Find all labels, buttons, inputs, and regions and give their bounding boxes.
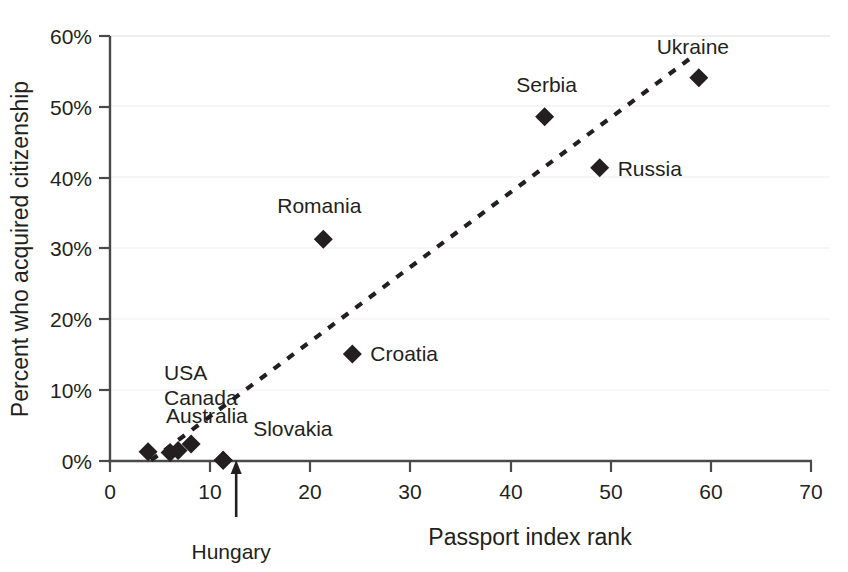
data-point-label: Russia	[618, 157, 683, 180]
x-axis-ticks	[110, 461, 811, 472]
data-point-marker	[214, 451, 233, 470]
data-point-marker	[590, 158, 609, 177]
y-axis-title: Percent who acquired citizenship	[7, 81, 33, 417]
data-point-labels: USACanadaAustraliaSlovakiaRomaniaCroatia…	[164, 35, 729, 441]
x-tick-label: 0	[104, 480, 116, 503]
x-tick-label: 20	[298, 480, 321, 503]
data-point-marker	[689, 68, 708, 87]
y-tick-label: 30%	[50, 237, 92, 260]
y-tick-label: 60%	[50, 25, 92, 48]
x-axis-title: Passport index rank	[428, 524, 632, 550]
data-point-label: Romania	[277, 194, 361, 217]
y-tick-label: 40%	[50, 167, 92, 190]
y-tick-label: 50%	[50, 96, 92, 119]
x-tick-label: 30	[398, 480, 421, 503]
data-point-label: Croatia	[370, 342, 438, 365]
data-point-label: Ukraine	[657, 35, 729, 58]
data-point-label: USA	[164, 361, 207, 384]
y-tick-label: 10%	[50, 379, 92, 402]
y-axis-ticks	[99, 36, 110, 461]
data-point-marker	[314, 230, 333, 249]
data-point-label: Slovakia	[253, 417, 333, 440]
chart-svg: 60% 50% 40% 30% 20% 10% 0% 0 10 20 30 40…	[0, 0, 848, 572]
x-tick-label: 70	[799, 480, 822, 503]
gridlines	[110, 36, 830, 390]
x-tick-label: 40	[499, 480, 522, 503]
y-axis-tick-labels: 60% 50% 40% 30% 20% 10% 0%	[50, 25, 92, 473]
y-tick-label: 20%	[50, 308, 92, 331]
x-tick-label: 50	[599, 480, 622, 503]
hungary-callout-annotation: Hungary	[191, 460, 271, 563]
hungary-callout-label: Hungary	[191, 540, 271, 563]
y-tick-label: 0%	[62, 450, 92, 473]
scatter-chart-figure: 60% 50% 40% 30% 20% 10% 0% 0 10 20 30 40…	[0, 0, 848, 572]
data-point-label: Australia	[166, 404, 248, 427]
data-point-marker	[535, 107, 554, 126]
x-tick-label: 10	[198, 480, 221, 503]
x-axis-tick-labels: 0 10 20 30 40 50 60 70	[104, 480, 823, 503]
data-point-label: Serbia	[516, 73, 577, 96]
data-point-marker	[343, 345, 362, 364]
x-tick-label: 60	[699, 480, 722, 503]
